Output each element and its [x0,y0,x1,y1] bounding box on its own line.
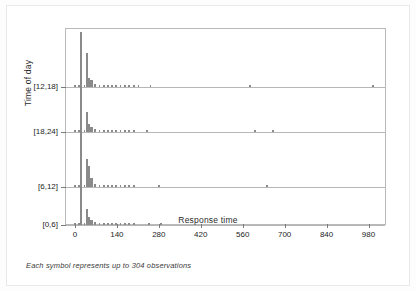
data-mark [372,85,374,87]
data-mark [107,185,109,187]
y-tick-label-2: [6,12] [0,182,58,191]
band-baseline [66,87,385,88]
data-mark [90,80,92,87]
band-baseline [66,187,385,188]
data-mark [249,85,251,87]
y-axis-title: Time of day [23,23,33,143]
data-mark [120,130,122,132]
data-mark [111,85,113,87]
data-mark [124,185,126,187]
data-mark [74,185,76,187]
y-tick-mark [61,225,66,226]
y-tick-mark [61,187,66,188]
data-mark [133,85,135,87]
y-tick-mark [61,87,66,88]
x-tick-label-7: 980 [349,230,389,239]
x-tick-label-6: 840 [307,230,347,239]
figure-canvas: [12,18][18,24][6,12][0,6]014028042056070… [0,0,416,291]
data-mark [120,185,122,187]
data-mark [99,185,101,187]
plot-inner: [12,18][18,24][6,12][0,6]014028042056070… [66,29,385,224]
data-mark [99,130,101,132]
data-mark [74,130,76,132]
data-mark [90,127,92,132]
data-mark [90,178,92,187]
data-mark [138,85,140,87]
x-axis-title: Response time [0,215,416,225]
data-mark [150,85,152,87]
data-mark [74,85,76,87]
data-mark [111,185,113,187]
data-mark [94,84,96,87]
data-mark [103,85,105,87]
x-tick-label-2: 280 [139,230,179,239]
data-mark [107,130,109,132]
x-tick-label-1: 140 [97,230,137,239]
data-mark [254,130,256,132]
data-mark [115,185,117,187]
data-mark [94,184,96,187]
data-mark [158,185,160,187]
data-mark [133,130,135,132]
data-mark [115,85,117,87]
data-mark [146,130,148,132]
plot-area: [12,18][18,24][6,12][0,6]014028042056070… [65,28,386,225]
data-mark [80,32,82,87]
y-tick-mark [61,132,66,133]
data-mark [107,85,109,87]
data-mark [128,185,130,187]
data-mark [94,129,96,132]
data-mark [103,130,105,132]
data-mark [120,85,122,87]
data-mark [99,85,101,87]
band-baseline [66,132,385,133]
data-mark [266,185,268,187]
data-mark [128,130,130,132]
x-tick-label-0: 0 [55,230,95,239]
data-mark [133,185,135,187]
x-tick-label-5: 700 [265,230,305,239]
data-mark [124,85,126,87]
data-mark [115,130,117,132]
data-mark [272,130,274,132]
data-mark [80,121,82,187]
x-tick-label-4: 560 [223,230,263,239]
data-mark [111,130,113,132]
data-mark [128,85,130,87]
data-mark [124,130,126,132]
chart-footnote: Each symbol represents up to 304 observa… [26,261,191,270]
band-baseline [66,225,385,226]
data-mark [103,185,105,187]
x-tick-label-3: 420 [181,230,221,239]
